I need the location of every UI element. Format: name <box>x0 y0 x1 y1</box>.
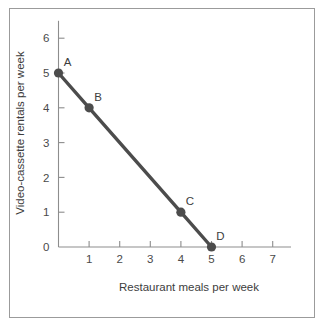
y-tick-label-0: 0 <box>43 241 49 253</box>
y-axis-title: Video-cassette rentals per week <box>14 51 26 215</box>
series-line-0 <box>59 73 212 247</box>
x-axis-title: Restaurant meals per week <box>119 281 259 293</box>
point-label-C: C <box>186 195 194 207</box>
y-tick-label-1: 1 <box>43 206 49 218</box>
x-tick-label-3: 3 <box>147 253 153 265</box>
data-series <box>59 73 212 247</box>
y-tick-label-4: 4 <box>43 102 50 114</box>
data-point-A <box>54 68 63 77</box>
data-point-labels: ABCD <box>64 56 225 242</box>
data-point-B <box>85 103 94 112</box>
axis-tick-labels: 01234561234567 <box>43 32 276 265</box>
x-tick-label-6: 6 <box>239 253 245 265</box>
x-tick-label-7: 7 <box>269 253 275 265</box>
axes <box>59 21 292 247</box>
data-point-D <box>207 242 216 251</box>
x-tick-label-4: 4 <box>178 253 185 265</box>
x-tick-label-1: 1 <box>86 253 92 265</box>
x-tick-label-5: 5 <box>208 253 214 265</box>
x-tick-label-2: 2 <box>116 253 122 265</box>
y-tick-label-5: 5 <box>43 67 49 79</box>
point-label-B: B <box>94 91 102 103</box>
point-label-A: A <box>64 56 72 68</box>
data-point-C <box>176 208 185 217</box>
point-label-D: D <box>216 230 224 242</box>
axis-ticks <box>59 38 273 247</box>
y-tick-label-2: 2 <box>43 172 49 184</box>
y-tick-label-3: 3 <box>43 137 49 149</box>
y-tick-label-6: 6 <box>43 32 49 44</box>
